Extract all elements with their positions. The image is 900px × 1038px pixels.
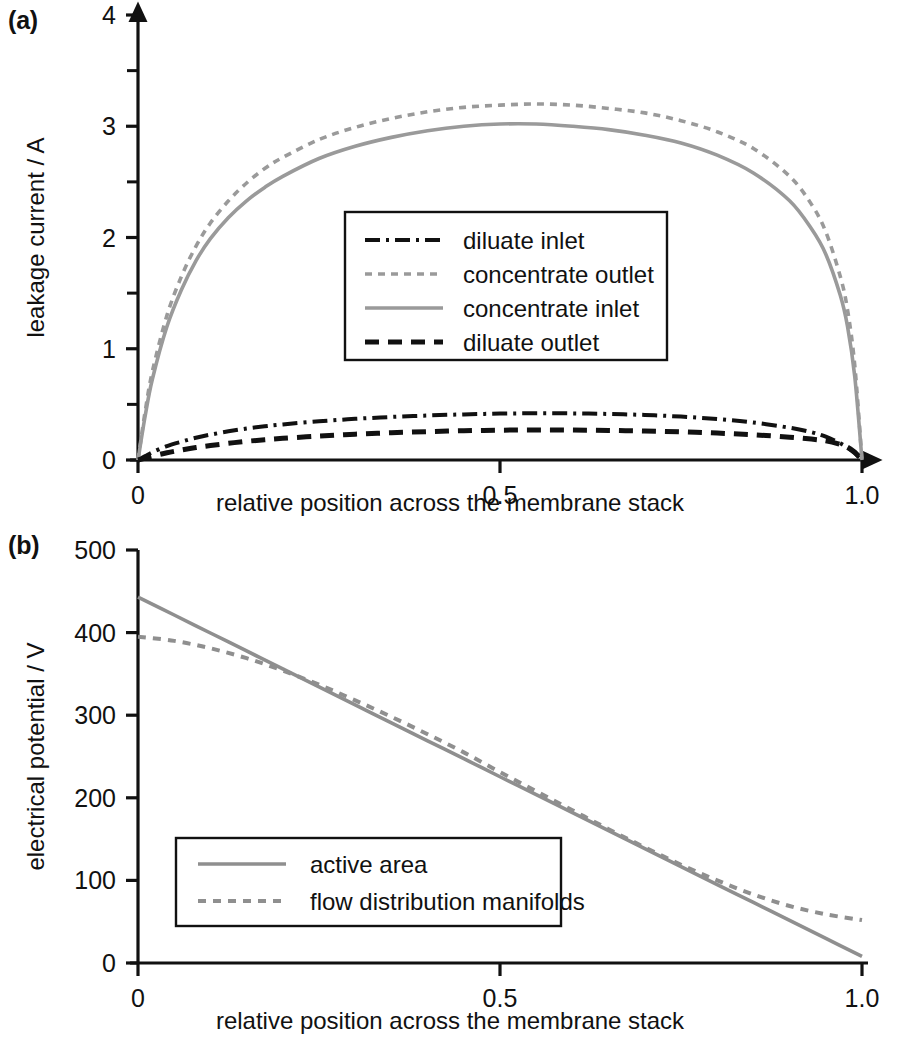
panel-a-series-0 [138, 413, 862, 460]
panel-b-ytick-label: 0 [102, 949, 116, 977]
panel-a-legend-label-0: diluate inlet [463, 227, 585, 254]
panel-a-series-3 [138, 430, 862, 460]
panel-b-xtick-label: 1.0 [845, 984, 880, 1012]
panel-a-ytick-label: 0 [102, 446, 116, 474]
panel-a-xtick-label: 0 [131, 481, 145, 509]
panel-a-legend-label-1: concentrate outlet [463, 261, 654, 288]
panel-b-ytick-label: 400 [74, 619, 116, 647]
panel-b-ytick-label: 200 [74, 784, 116, 812]
panel-a-ytick-label: 2 [102, 224, 116, 252]
panel-a-y-axis-title: leakage current / A [22, 137, 49, 337]
panel-a-ytick-label: 4 [102, 1, 116, 29]
panel-b-x-axis-title: relative position across the membrane st… [216, 1007, 685, 1034]
panel-a-tag: (a) [8, 6, 38, 35]
figure-container: (a) 0123400.51.0relative position across… [0, 0, 900, 1038]
panel-b-y-axis-title: electrical potential / V [22, 642, 49, 870]
panel-a-legend-label-2: concentrate inlet [463, 295, 639, 322]
panel-b-legend-label-1: flow distribution manifolds [310, 888, 585, 915]
panel-a-plot: 0123400.51.0relative position across the… [0, 0, 900, 525]
panel-b-ytick-label: 100 [74, 866, 116, 894]
panel-b: (b) 010020030040050000.51.0relative posi… [0, 525, 900, 1038]
panel-a-x-axis-title: relative position across the membrane st… [216, 489, 685, 516]
panel-b-tag: (b) [8, 531, 39, 560]
panel-a-ytick-label: 1 [102, 335, 116, 363]
panel-b-xtick-label: 0 [131, 984, 145, 1012]
panel-a-legend-label-3: diluate outlet [463, 329, 599, 356]
panel-b-plot: 010020030040050000.51.0relative position… [0, 525, 900, 1038]
panel-a-xtick-label: 1.0 [845, 481, 880, 509]
panel-b-ytick-label: 300 [74, 701, 116, 729]
panel-b-legend-label-0: active area [310, 851, 428, 878]
panel-a-ytick-label: 3 [102, 112, 116, 140]
panel-b-ytick-label: 500 [74, 536, 116, 564]
panel-a: (a) 0123400.51.0relative position across… [0, 0, 900, 525]
